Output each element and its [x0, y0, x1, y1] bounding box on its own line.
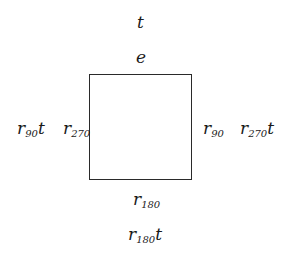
label-right-inner: r90 [203, 120, 224, 139]
label-bottom-inner: r180 [133, 191, 160, 210]
label-top-inner: e [136, 49, 146, 66]
label-top-outer: t [137, 14, 144, 31]
square [89, 74, 192, 180]
label-right-outer: r270t [240, 120, 274, 139]
label-left-inner: r270 [63, 120, 90, 139]
label-left-outer: r90t [17, 120, 45, 139]
label-bottom-outer: r180t [128, 226, 162, 245]
